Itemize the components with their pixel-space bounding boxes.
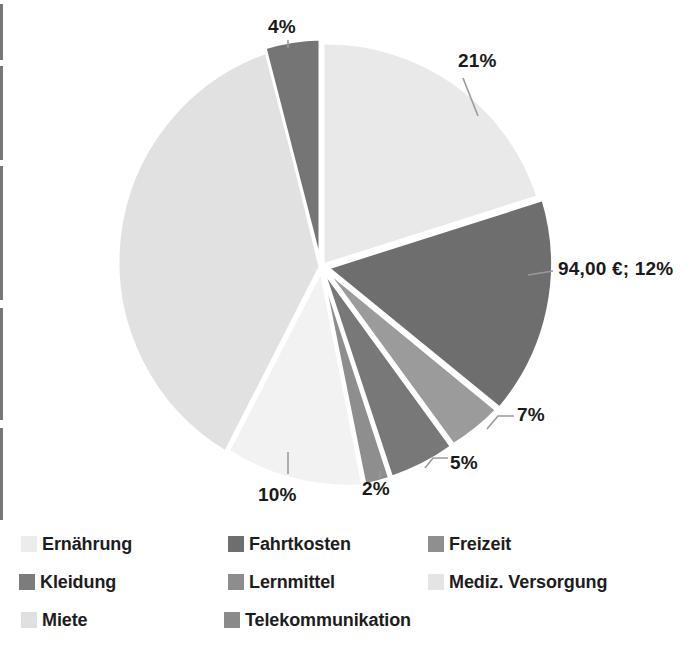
legend-item-fahrtkosten[interactable]: Fahrtkosten <box>228 531 351 557</box>
legend-label-kleidung: Kleidung <box>40 572 116 593</box>
pie-label-ernaehrung: 21% <box>458 50 497 72</box>
legend-swatch-freizeit <box>428 536 444 552</box>
legend-label-lernmittel: Lernmittel <box>249 572 335 593</box>
legend-label-freizeit: Freizeit <box>449 534 511 555</box>
legend-swatch-ernaehrung <box>21 536 37 552</box>
pie-label-telekommunikation: 4% <box>268 16 296 38</box>
legend-swatch-telekommunikation <box>224 612 240 628</box>
legend-label-miete: Miete <box>42 610 88 631</box>
legend-swatch-kleidung <box>19 574 35 590</box>
legend-item-telekommunikation[interactable]: Telekommunikation <box>224 607 411 633</box>
pie-label-fahrtkosten: 94,00 €; 12% <box>558 258 673 280</box>
leader-line-freizeit <box>487 416 514 429</box>
pie-label-mediz-versorgung: 10% <box>258 484 297 506</box>
legend-item-lernmittel[interactable]: Lernmittel <box>228 569 335 595</box>
legend-item-freizeit[interactable]: Freizeit <box>428 531 511 557</box>
legend-item-ernaehrung[interactable]: Ernährung <box>21 531 132 557</box>
legend-label-telekommunikation: Telekommunikation <box>245 610 411 631</box>
legend-item-miete[interactable]: Miete <box>21 607 88 633</box>
legend-row-3: Miete Telekommunikation <box>0 603 691 643</box>
legend-item-mediz-versorgung[interactable]: Mediz. Versorgung <box>428 569 607 595</box>
legend-item-kleidung[interactable]: Kleidung <box>19 569 116 595</box>
legend-label-fahrtkosten: Fahrtkosten <box>249 534 351 555</box>
legend-swatch-mediz-versorgung <box>428 574 444 590</box>
pie-label-freizeit: 7% <box>517 404 545 426</box>
legend-label-ernaehrung: Ernährung <box>42 534 132 555</box>
legend-swatch-fahrtkosten <box>228 536 244 552</box>
legend-label-mediz-versorgung: Mediz. Versorgung <box>449 572 607 593</box>
pie-label-lernmittel: 2% <box>362 478 390 500</box>
legend-row-2: Kleidung Lernmittel Mediz. Versorgung <box>0 565 691 605</box>
pie-chart: 4% 21% 94,00 €; 12% 7% 5% 2% 10% <box>0 0 691 524</box>
pie-slices <box>118 39 553 486</box>
legend-swatch-lernmittel <box>228 574 244 590</box>
legend-swatch-miete <box>21 612 37 628</box>
legend-row-1: Ernährung Fahrtkosten Freizeit <box>0 527 691 567</box>
chart-legend: Ernährung Fahrtkosten Freizeit Kleidung … <box>0 527 691 656</box>
pie-label-kleidung: 5% <box>450 452 478 474</box>
